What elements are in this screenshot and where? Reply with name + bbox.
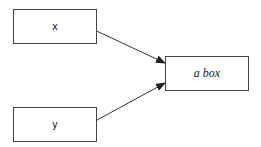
node-y: y xyxy=(13,107,97,142)
edge-x-to-a-box xyxy=(88,27,165,63)
node-y-label: y xyxy=(52,119,58,130)
node-x: x xyxy=(13,9,97,44)
node-x-label: x xyxy=(52,21,58,32)
node-a-box: a box xyxy=(165,56,249,91)
node-a-box-label: a box xyxy=(194,66,220,81)
edge-y-to-a-box xyxy=(88,83,165,125)
